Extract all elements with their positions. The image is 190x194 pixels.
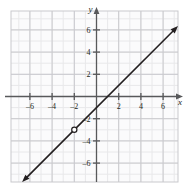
open-circle-point (72, 127, 77, 132)
y-tick-label: 2 (87, 70, 91, 79)
y-tick-label: –4 (82, 137, 91, 146)
x-tick-label: 2 (117, 102, 121, 111)
graph-canvas: –6–4–2246642–2–4–6 x y (0, 0, 190, 194)
x-tick-label: 6 (161, 102, 165, 111)
x-axis-label: x (177, 97, 182, 107)
y-tick-label: 6 (87, 26, 91, 35)
x-tick-label: –2 (69, 102, 78, 111)
x-tick-label: –6 (25, 102, 34, 111)
y-tick-label: 4 (87, 48, 91, 57)
x-tick-label: –4 (47, 102, 56, 111)
coordinate-plane-figure: –6–4–2246642–2–4–6 x y (0, 0, 190, 194)
data-points (72, 127, 77, 132)
x-tick-label: 4 (139, 102, 143, 111)
y-axis-label: y (88, 4, 93, 14)
y-tick-label: –6 (82, 159, 91, 168)
